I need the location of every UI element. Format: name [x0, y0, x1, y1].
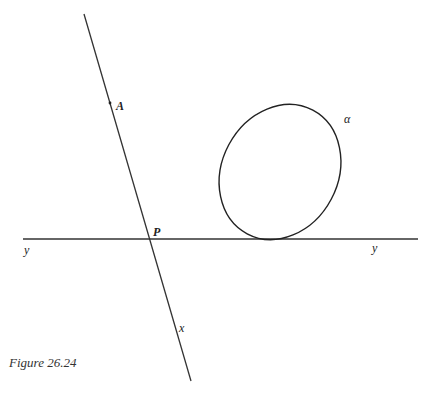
line-x [84, 14, 191, 381]
label-y-left: y [24, 244, 29, 256]
label-a: A [116, 100, 124, 112]
label-p: P [153, 226, 160, 238]
label-alpha: α [344, 113, 350, 125]
ellipse-alpha [196, 83, 364, 261]
point-a-marker [109, 102, 112, 105]
label-y-right: y [372, 242, 377, 254]
diagram-svg [0, 0, 433, 396]
figure-canvas: A P x y y α Figure 26.24 [0, 0, 433, 396]
label-x: x [179, 322, 184, 334]
figure-caption: Figure 26.24 [9, 355, 76, 371]
